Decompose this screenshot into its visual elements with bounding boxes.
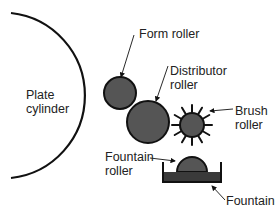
distributor-roller-label-line2: roller [170, 78, 227, 92]
form-roller [104, 77, 136, 109]
plate-cylinder-label-line1: Plate [26, 88, 69, 102]
distributor-roller-leader [156, 66, 168, 101]
form-roller-leader [121, 35, 134, 77]
brush-roller-label: Brush roller [235, 104, 268, 132]
distributor-roller [127, 101, 169, 143]
fountain-leader [212, 186, 225, 200]
distributor-roller-label-line1: Distributor [170, 64, 227, 78]
brush-roller [172, 105, 212, 145]
dampening-system-diagram: Plate cylinder Form roller Distributor r… [0, 0, 279, 215]
brush-roller-leader [210, 109, 233, 111]
fountain-roller-label-line2: roller [105, 164, 154, 178]
fountain-roller-label: Fountain roller [105, 150, 154, 178]
brush-roller-label-line2: roller [235, 118, 268, 132]
form-roller-label: Form roller [139, 27, 199, 41]
fountain-roller-label-line1: Fountain [105, 150, 154, 164]
distributor-roller-label: Distributor roller [170, 64, 227, 92]
plate-cylinder-label-line2: cylinder [26, 102, 69, 116]
fountain-roller [177, 157, 207, 172]
brush-roller-label-line1: Brush [235, 104, 268, 118]
plate-cylinder-label: Plate cylinder [26, 88, 69, 116]
fountain-label: Fountain [226, 194, 275, 208]
